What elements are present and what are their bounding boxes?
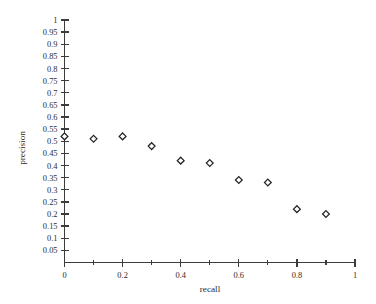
y-tick-label: 0.5 [47,137,57,146]
data-point-marker [206,160,213,167]
x-tick-label: 0 [62,271,66,280]
y-tick-label: 0.7 [47,89,57,98]
x-axis-title: recall [200,284,221,294]
x-tick-label: 1 [353,271,357,280]
y-axis-title: precision [17,131,27,165]
y-tick-label: 0.8 [47,65,57,74]
y-tick-label: 0.55 [43,125,58,134]
y-tick-label: 0.4 [47,162,58,171]
y-tick-label: 1 [53,16,57,25]
data-point-marker [119,133,126,140]
data-point-marker [323,211,330,218]
data-point-marker [235,177,242,184]
y-tick-label: 0.3 [47,186,57,195]
data-point-marker [177,157,184,164]
y-tick-label: 0.9 [47,40,57,49]
y-tick-label: 0.1 [47,234,57,243]
y-tick-label: 0.25 [43,198,58,207]
y-tick-label: 0.6 [47,113,57,122]
y-tick-label: 0.65 [43,101,58,110]
data-point-marker [294,206,301,213]
y-tick-label: 0.2 [47,210,57,219]
y-tick-label: 0.75 [43,77,58,86]
precision-recall-chart: 0.050.10.150.20.250.30.350.40.450.50.550… [0,0,376,304]
data-point-marker [264,179,271,186]
x-tick-label: 0.8 [292,271,302,280]
data-point-marker [90,135,97,142]
data-point-markers [61,133,329,217]
x-tick-label: 0.6 [234,271,244,280]
y-tick-label: 0.95 [43,28,58,37]
y-tick-label: 0.85 [43,52,58,61]
x-axis-tick-labels: 00.20.40.60.81 [62,271,357,280]
data-point-marker [148,143,155,150]
y-tick-label: 0.35 [43,174,58,183]
y-tick-label: 0.05 [43,246,58,255]
y-axis-tick-labels: 0.050.10.150.20.250.30.350.40.450.50.550… [43,16,58,255]
y-tick-label: 0.45 [43,149,58,158]
x-tick-label: 0.2 [117,271,127,280]
data-point-marker [61,133,68,140]
x-tick-label: 0.4 [175,271,186,280]
chart-canvas: 0.050.10.150.20.250.30.350.40.450.50.550… [0,0,376,304]
y-tick-label: 0.15 [43,222,58,231]
